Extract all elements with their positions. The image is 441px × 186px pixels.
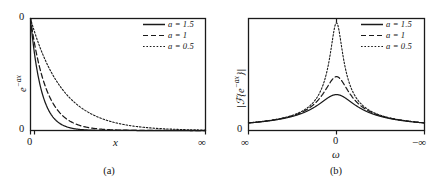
panel-b: |ℱ{e−ax}| 0 ∞ 0 −∞ ω (b) a = 1.5a = 1a =… <box>220 0 441 186</box>
legend-line-solid-icon <box>361 20 383 29</box>
curve-solid <box>249 95 425 123</box>
legend-item-label: a = 1 <box>386 31 405 40</box>
panel-b-xtick-center: 0 <box>333 136 338 147</box>
legend-line-dashed-icon <box>361 31 383 40</box>
panel-a-ylabel: e−ax <box>14 75 28 92</box>
legend-item: a = 0.5 <box>361 41 412 52</box>
figure-container: e−ax 0 0 0 ∞ x (a) a = 1.5a = 1a = 0.5 <box>0 0 441 186</box>
legend-item-label: a = 0.5 <box>386 42 412 51</box>
panel-b-ylabel-bar-left: | <box>235 105 246 108</box>
panel-b-xtick-right: −∞ <box>412 137 426 148</box>
legend-item: a = 1.5 <box>143 19 194 30</box>
panel-b-ylabel: |ℱ{e−ax}| <box>232 69 246 108</box>
legend-item-label: a = 1.5 <box>386 20 412 29</box>
legend-item: a = 1.5 <box>361 19 412 30</box>
panel-a-ylabel-exponent: −ax <box>14 75 23 87</box>
panel-b-caption: (b) <box>330 166 342 177</box>
legend-line-dotted-icon <box>143 42 165 51</box>
panel-b-xtick-left: ∞ <box>241 137 249 148</box>
panel-b-xlabel: ω <box>332 149 340 160</box>
legend-item: a = 1 <box>143 30 194 41</box>
curve-dashed <box>249 77 425 123</box>
panel-b-ytick-bottom: 0 <box>237 124 242 135</box>
panel-a-xlabel: x <box>113 137 118 148</box>
panel-a-ylabel-base: e <box>17 87 28 92</box>
fourier-operator-icon: ℱ <box>235 97 246 105</box>
legend-line-dotted-icon <box>361 42 383 51</box>
panel-a-xtick-left: 0 <box>27 137 32 148</box>
panel-a-xtick-right: ∞ <box>198 137 206 148</box>
panel-a-caption: (a) <box>103 166 115 177</box>
legend-line-dashed-icon <box>143 31 165 40</box>
legend-item: a = 0.5 <box>143 41 194 52</box>
legend-item-label: a = 0.5 <box>168 42 194 51</box>
legend-item: a = 1 <box>361 30 412 41</box>
panel-a-legend: a = 1.5a = 1a = 0.5 <box>143 19 194 52</box>
panel-a-ytick-top: 0 <box>19 12 24 23</box>
legend-item-label: a = 1 <box>168 31 187 40</box>
legend-line-solid-icon <box>143 20 165 29</box>
legend-item-label: a = 1.5 <box>168 20 194 29</box>
panel-b-legend: a = 1.5a = 1a = 0.5 <box>361 19 412 52</box>
panel-a: e−ax 0 0 0 ∞ x (a) a = 1.5a = 1a = 0.5 <box>0 0 220 186</box>
panel-a-ytick-bottom: 0 <box>19 124 24 135</box>
